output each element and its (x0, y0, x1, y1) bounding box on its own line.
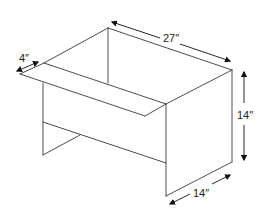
dimension-height: 14″ (237, 72, 253, 160)
dimension-label-height: 14″ (237, 109, 253, 121)
desk-diagram: 27″ 4″ 14″ 14″ (0, 0, 267, 222)
dimension-label-depth: 14″ (193, 187, 209, 199)
dimension-label-length: 27″ (163, 32, 179, 44)
desk-outline (20, 28, 232, 196)
dimension-length: 27″ (112, 22, 230, 61)
dimension-overhang: 4″ (17, 52, 38, 71)
dimension-label-overhang: 4″ (19, 52, 29, 64)
